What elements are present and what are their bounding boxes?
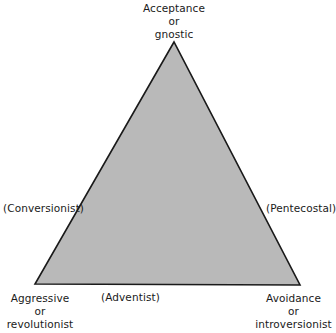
edge-label-bottom: (Adventist) [101, 291, 160, 304]
vertex-label-bottom-right: Avoidance or introversionist [255, 292, 332, 331]
vertex-bottom-left-line-3: revolutionist [0, 318, 80, 331]
vertex-top-line-2: or [124, 15, 224, 28]
vertex-top-line-3: gnostic [124, 28, 224, 41]
vertex-top-line-1: Acceptance [124, 2, 224, 15]
edge-label-right: (Pentecostal) [266, 202, 336, 215]
vertex-bottom-right-line-3: introversionist [255, 318, 332, 331]
edge-label-left: (Conversionist) [3, 202, 84, 215]
vertex-bottom-right-line-1: Avoidance [255, 292, 332, 305]
vertex-bottom-right-line-2: or [255, 305, 332, 318]
vertex-label-top: Acceptance or gnostic [124, 2, 224, 41]
vertex-bottom-left-line-2: or [0, 305, 80, 318]
triangle-shape [35, 42, 300, 285]
vertex-label-bottom-left: Aggressive or revolutionist [0, 292, 80, 331]
vertex-bottom-left-line-1: Aggressive [0, 292, 80, 305]
